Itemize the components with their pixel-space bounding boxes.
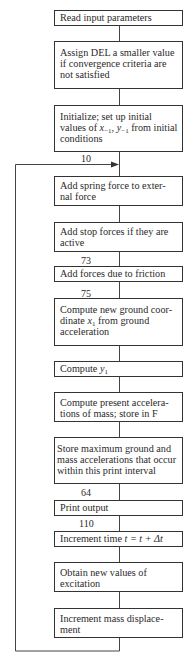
step-assign-del: Assign DEL a smaller value if convergenc…	[54, 41, 183, 89]
label-10: 10	[81, 154, 91, 164]
step-text: Increment time	[60, 533, 125, 544]
step-increment-time: Increment time t = t + Δt	[54, 531, 183, 547]
step-present-accelerations: Compute present accelera-tions of mass; …	[54, 392, 183, 422]
step-friction: Add forces due to friction	[54, 266, 183, 282]
label-110: 110	[79, 519, 94, 529]
subscript: −1	[121, 127, 128, 135]
step-stop-forces: Add stop forces if they are active	[54, 222, 183, 252]
step-mass-displacement: Increment mass displace-ment	[54, 608, 183, 638]
subscript: −1	[104, 127, 111, 135]
step-text: Print output	[60, 502, 108, 513]
arrowhead-icon	[111, 162, 119, 168]
time-expression: t = t + Δt	[125, 533, 163, 544]
step-initialize: Initialize; set up initial values of x−1…	[54, 105, 183, 152]
subscript: 1	[104, 368, 108, 376]
step-text: Store maximum ground and mass accelerati…	[57, 443, 176, 476]
step-text: Add spring force to exter-nal force	[60, 180, 166, 202]
step-compute-y1: Compute y1	[54, 361, 183, 377]
step-read-input: Read input parameters	[54, 10, 183, 26]
step-ground-coordinate: Compute new ground coor-dinate x1 from g…	[54, 298, 183, 346]
label-73: 73	[81, 256, 91, 266]
step-spring-force: Add spring force to exter-nal force	[54, 176, 183, 206]
step-store-max: Store maximum ground and mass accelerati…	[54, 437, 183, 484]
step-excitation: Obtain new values of excitation	[54, 562, 183, 592]
label-64: 64	[81, 488, 91, 498]
step-print-output: Print output	[54, 500, 183, 516]
step-text: Read input parameters	[60, 12, 152, 23]
step-text: Add forces due to friction	[60, 268, 165, 279]
step-text: Compute present accelera-tions of mass; …	[60, 397, 169, 419]
step-text: Compute	[60, 363, 100, 374]
step-text: Assign DEL a smaller value if convergenc…	[60, 47, 175, 80]
step-text: Obtain new values of excitation	[60, 567, 147, 589]
step-text: Add stop forces if they are active	[60, 226, 168, 248]
step-text: Increment mass displace-ment	[60, 613, 164, 635]
